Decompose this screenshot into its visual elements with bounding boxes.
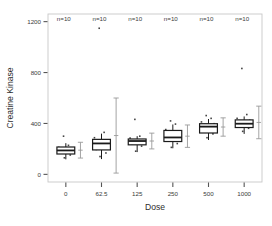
box bbox=[164, 130, 182, 141]
y-axis-title: Creatine Kinase bbox=[5, 67, 15, 128]
sample-size-label: n=10 bbox=[164, 15, 178, 22]
boxplot-group bbox=[235, 68, 261, 139]
x-tick-label: 125 bbox=[132, 190, 143, 197]
boxplot-group bbox=[164, 120, 190, 148]
x-tick-label: 250 bbox=[168, 190, 179, 197]
errorbar bbox=[78, 142, 83, 158]
errorbar bbox=[185, 125, 190, 147]
box bbox=[93, 139, 111, 150]
data-point bbox=[205, 115, 207, 117]
y-tick-label: 800 bbox=[31, 69, 42, 76]
data-point bbox=[171, 147, 173, 149]
y-tick-label: 1200 bbox=[27, 18, 41, 25]
data-point bbox=[64, 157, 66, 159]
data-point bbox=[99, 156, 101, 158]
data-point bbox=[242, 131, 244, 133]
errorbar bbox=[256, 106, 261, 139]
data-point bbox=[236, 118, 238, 120]
boxplot-figure: 04008001200Creatine Kinase062.5125250500… bbox=[0, 0, 272, 226]
data-point bbox=[175, 123, 177, 125]
x-axis: 062.51252505001000Dose bbox=[64, 183, 252, 213]
data-point bbox=[68, 145, 70, 147]
group-annotations: n=10n=10n=10n=10n=10n=10 bbox=[57, 15, 250, 22]
x-tick-label: 500 bbox=[203, 190, 214, 197]
data-point bbox=[206, 137, 208, 139]
boxplot-group bbox=[128, 119, 154, 153]
x-tick-label: 1000 bbox=[237, 190, 251, 197]
x-tick-label: 62.5 bbox=[95, 190, 108, 197]
boxplot-group bbox=[93, 27, 119, 173]
sample-size-label: n=10 bbox=[57, 15, 71, 22]
sample-size-label: n=10 bbox=[200, 15, 214, 22]
x-axis-title: Dose bbox=[145, 202, 165, 212]
errorbar bbox=[149, 133, 154, 149]
data-point bbox=[201, 121, 203, 123]
data-point bbox=[134, 119, 136, 121]
sample-size-label: n=10 bbox=[93, 15, 107, 22]
data-point bbox=[94, 137, 96, 139]
sample-size-label: n=10 bbox=[128, 15, 142, 22]
y-axis: 04008001200Creatine Kinase bbox=[5, 18, 48, 178]
boxplot-group bbox=[200, 115, 226, 140]
data-point bbox=[210, 118, 212, 120]
data-point bbox=[241, 68, 243, 70]
data-point bbox=[135, 150, 137, 152]
sample-size-label: n=10 bbox=[235, 15, 249, 22]
box bbox=[200, 124, 218, 133]
data-point bbox=[98, 27, 100, 29]
errorbar bbox=[221, 118, 226, 136]
data-point bbox=[176, 143, 178, 145]
boxplot-group bbox=[57, 135, 83, 159]
errorbar bbox=[114, 98, 119, 173]
data-point bbox=[105, 152, 107, 154]
x-tick-label: 0 bbox=[64, 190, 68, 197]
data-point bbox=[246, 114, 248, 116]
data-point bbox=[103, 132, 105, 134]
data-point bbox=[170, 120, 172, 122]
data-point bbox=[141, 145, 143, 147]
y-tick-label: 0 bbox=[38, 171, 42, 178]
data-point bbox=[63, 135, 65, 137]
chart-canvas: 04008001200Creatine Kinase062.5125250500… bbox=[0, 0, 272, 226]
data-point bbox=[139, 135, 141, 137]
y-tick-label: 400 bbox=[31, 120, 42, 127]
